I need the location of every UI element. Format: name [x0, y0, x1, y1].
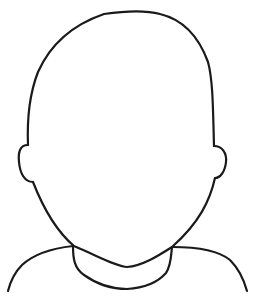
head-outline-drawing [0, 0, 255, 305]
right-shoulder [172, 247, 247, 291]
left-ear [19, 145, 33, 182]
head-outline [28, 11, 215, 267]
right-ear [214, 146, 226, 178]
left-shoulder [8, 246, 73, 291]
drawing-canvas: Blank head and shoulders outline drawing [0, 0, 255, 305]
